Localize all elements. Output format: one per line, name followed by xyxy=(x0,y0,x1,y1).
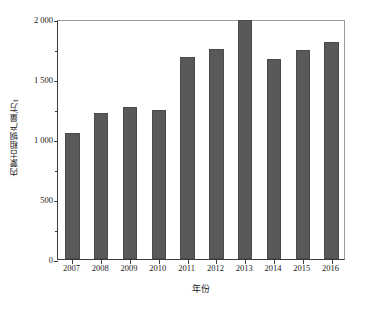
x-axis-tick-label: 2009 xyxy=(121,263,138,273)
bar-2010 xyxy=(152,110,166,259)
y-axis-major-tick xyxy=(54,201,59,202)
x-axis-tick-label: 2007 xyxy=(63,263,80,273)
x-axis-tick-label: 2013 xyxy=(236,263,253,273)
bar-2015 xyxy=(296,50,310,259)
y-axis-minor-tick xyxy=(55,231,58,232)
bar-2009 xyxy=(123,107,137,259)
y-axis-tick-label: 1 000 xyxy=(23,135,53,145)
x-axis-tick-label: 2010 xyxy=(149,263,166,273)
y-axis-tick-labels: 05001 0001 5002 000 xyxy=(22,0,53,310)
x-axis-tick-labels: 2007200820092010201120122013201420152016 xyxy=(57,263,345,277)
x-axis-tick-label: 2008 xyxy=(92,263,109,273)
y-axis-tick-label: 500 xyxy=(23,195,53,205)
y-axis-minor-tick xyxy=(55,171,58,172)
x-axis-tick-label: 2016 xyxy=(322,263,339,273)
bar-2011 xyxy=(180,57,194,259)
bar-chart-figure: 内蒙古粗钢产量/万t 05001 0001 5002 000 200720082… xyxy=(0,0,371,310)
bar-2007 xyxy=(65,133,79,259)
x-axis-tick-label: 2015 xyxy=(293,263,310,273)
y-axis-major-tick xyxy=(54,141,59,142)
bar-2014 xyxy=(267,59,281,259)
y-axis-tick-label: 0 xyxy=(23,255,53,265)
x-axis-tick-label: 2011 xyxy=(178,263,195,273)
x-axis-tick-label: 2012 xyxy=(207,263,224,273)
plot-area xyxy=(57,20,345,260)
y-axis-major-tick xyxy=(54,261,59,262)
bar-2016 xyxy=(324,42,338,259)
bar-2012 xyxy=(209,49,223,259)
y-axis-minor-tick xyxy=(55,51,58,52)
x-axis-title: 年份 xyxy=(57,282,345,295)
bar-2008 xyxy=(94,113,108,259)
bar-2013 xyxy=(238,20,252,259)
y-axis-major-tick xyxy=(54,81,59,82)
x-axis-tick-label: 2014 xyxy=(265,263,282,273)
y-axis-major-tick xyxy=(54,21,59,22)
y-axis-minor-tick xyxy=(55,111,58,112)
y-axis-tick-label: 2 000 xyxy=(23,15,53,25)
y-axis-tick-label: 1 500 xyxy=(23,75,53,85)
